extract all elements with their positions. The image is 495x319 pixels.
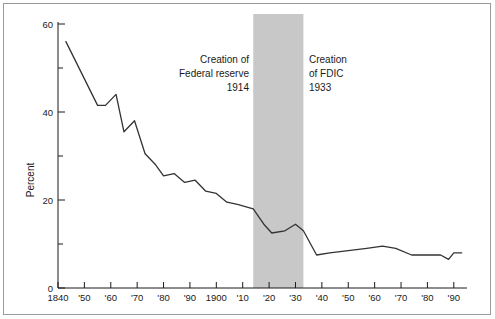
- annotation-fdic-line1: Creation: [309, 54, 347, 65]
- annotation-fed-line3: 1914: [227, 82, 250, 93]
- annotation-federal-reserve: Creation of Federal reserve 1914: [179, 54, 249, 93]
- x-tick-label: '60: [105, 292, 117, 303]
- x-tick-label: '80: [421, 292, 433, 303]
- x-tick-label: '50: [342, 292, 354, 303]
- y-axis-ticks: [58, 24, 65, 288]
- x-tick-label: '20: [263, 292, 275, 303]
- x-tick-label: '80: [157, 292, 169, 303]
- x-tick-label: '10: [237, 292, 249, 303]
- x-tick-label: '50: [78, 292, 90, 303]
- x-tick-label: '40: [316, 292, 328, 303]
- y-axis-tick-labels: 0204060: [42, 19, 53, 294]
- x-tick-label: 1840: [47, 292, 68, 303]
- x-tick-label: '90: [184, 292, 196, 303]
- y-tick-label: 60: [42, 19, 53, 30]
- x-tick-label: '70: [395, 292, 407, 303]
- annotation-fed-line2: Federal reserve: [179, 68, 249, 79]
- annotation-fdic-line3: 1933: [309, 82, 332, 93]
- annotation-fdic: Creation of FDIC 1933: [309, 54, 347, 93]
- x-axis-tick-labels: 1840'50'60'70'80'901900'10'20'30'40'50'6…: [47, 292, 460, 303]
- x-tick-label: 1900: [206, 292, 227, 303]
- chart-figure: 1840'50'60'70'80'901900'10'20'30'40'50'6…: [0, 0, 495, 319]
- chart-plot-area: 1840'50'60'70'80'901900'10'20'30'40'50'6…: [0, 0, 495, 319]
- y-tick-label: 20: [42, 195, 53, 206]
- x-tick-label: '90: [448, 292, 460, 303]
- x-tick-label: '70: [131, 292, 143, 303]
- y-axis-title: Percent: [25, 163, 36, 198]
- annotation-fdic-line2: of FDIC: [309, 68, 343, 79]
- y-tick-label: 40: [42, 107, 53, 118]
- y-tick-label: 0: [48, 283, 53, 294]
- x-tick-label: '30: [289, 292, 301, 303]
- x-tick-label: '60: [368, 292, 380, 303]
- annotation-fed-line1: Creation of: [200, 54, 249, 65]
- shaded-band-region: [253, 14, 303, 288]
